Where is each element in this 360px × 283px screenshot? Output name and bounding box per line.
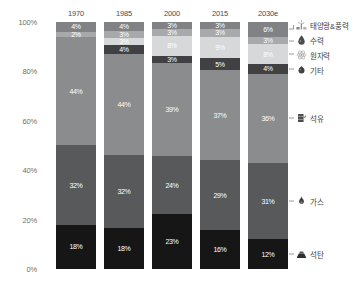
bar-segment-수력[interactable]: 3%	[248, 37, 288, 44]
bar-segment-태양광&풍력[interactable]: 4%	[56, 22, 96, 32]
legend-label: 원자력	[310, 50, 330, 61]
bar-segment-원자력[interactable]: 3%	[104, 38, 144, 45]
bar-column-1985: 19854%3%3%4%44%32%18%	[104, 0, 144, 283]
bar-segment-석유[interactable]: 36%	[248, 74, 288, 163]
legend-item-석탄[interactable]: 석탄	[296, 249, 323, 260]
legend-leader-line	[289, 54, 294, 55]
legend-leader-line	[289, 201, 294, 202]
segment-value-label: 37%	[213, 112, 226, 119]
segment-value-label: 3%	[215, 29, 225, 36]
bar-segment-기타[interactable]: 3%	[152, 56, 192, 63]
segment-value-label: 4%	[119, 46, 129, 53]
stacked-bar[interactable]: 4%2%44%32%18%	[56, 22, 96, 269]
stacked-bar[interactable]: 3%3%8%3%39%24%23%	[152, 22, 192, 269]
bar-segment-태양광&풍력[interactable]: 3%	[200, 22, 240, 29]
segment-value-label: 39%	[165, 106, 178, 113]
bar-segment-수력[interactable]: 3%	[152, 29, 192, 36]
segment-value-label: 8%	[263, 51, 273, 58]
segment-value-label: 3%	[263, 37, 273, 44]
legend-item-석유[interactable]: 석유	[296, 113, 323, 124]
bar-segment-가스[interactable]: 32%	[56, 145, 96, 224]
y-axis-tick: 40%	[23, 166, 37, 175]
segment-value-label: 3%	[167, 29, 177, 36]
segment-value-label: 3%	[167, 56, 177, 63]
legend-item-기타[interactable]: 기타	[296, 65, 323, 76]
segment-value-label: 3%	[167, 22, 177, 29]
bar-segment-석유[interactable]: 44%	[104, 54, 144, 155]
segment-value-label: 32%	[69, 182, 82, 189]
segment-value-label: 4%	[119, 23, 129, 30]
bar-column-1970: 19704%2%44%32%18%	[56, 0, 96, 283]
segment-value-label: 6%	[263, 26, 273, 33]
bar-column-2015: 20153%3%9%5%37%29%16%	[200, 0, 240, 283]
legend-label: 수력	[310, 35, 323, 46]
bar-segment-원자력[interactable]: 9%	[200, 37, 240, 59]
bar-segment-수력[interactable]: 3%	[104, 31, 144, 38]
column-header: 1970	[56, 9, 96, 18]
segment-value-label: 16%	[213, 246, 226, 253]
bar-segment-석탄[interactable]: 16%	[200, 230, 240, 269]
bar-segment-가스[interactable]: 29%	[200, 160, 240, 230]
segment-value-label: 23%	[165, 238, 178, 245]
legend-item-원자력[interactable]: 원자력	[296, 50, 330, 61]
bar-column-2030e: 2030e6%3%8%4%36%31%12%	[248, 0, 288, 283]
bar-segment-기타[interactable]: 4%	[104, 45, 144, 54]
legend-label: 태양광&풍력	[310, 20, 348, 31]
bar-segment-가스[interactable]: 24%	[152, 156, 192, 214]
bar-segment-원자력[interactable]: 8%	[248, 44, 288, 64]
chart-legend: 태양광&풍력수력원자력기타석유가스석탄	[296, 0, 360, 283]
stacked-bar[interactable]: 6%3%8%4%36%31%12%	[248, 22, 288, 269]
bar-segment-석유[interactable]: 39%	[152, 63, 192, 157]
legend-leader-line	[289, 118, 294, 119]
legend-leader-joiner	[293, 25, 294, 29]
bar-segment-기타[interactable]: 4%	[248, 64, 288, 74]
bar-column-2000: 20003%3%8%3%39%24%23%	[152, 0, 192, 283]
legend-leader-line	[289, 254, 294, 255]
bar-segment-기타[interactable]: 5%	[200, 58, 240, 70]
other-dot-icon	[296, 65, 307, 76]
bar-segment-석탄[interactable]: 12%	[248, 239, 288, 269]
legend-item-수력[interactable]: 수력	[296, 35, 323, 46]
legend-item-태양광&풍력[interactable]: 태양광&풍력	[296, 20, 348, 31]
bar-segment-석유[interactable]: 37%	[200, 70, 240, 160]
column-header: 2000	[152, 9, 192, 18]
y-axis-tick: 100%	[19, 18, 37, 27]
segment-value-label: 3%	[215, 22, 225, 29]
bar-segment-태양광&풍력[interactable]: 4%	[104, 22, 144, 31]
column-header: 2030e	[248, 9, 288, 18]
bar-segment-석탄[interactable]: 18%	[56, 225, 96, 269]
legend-leader-line	[289, 68, 294, 69]
segment-value-label: 44%	[117, 101, 130, 108]
atom-icon	[296, 50, 307, 61]
segment-value-label: 3%	[119, 31, 129, 38]
bar-segment-석탄[interactable]: 23%	[152, 214, 192, 269]
bar-segment-수력[interactable]: 3%	[200, 29, 240, 36]
legend-item-가스[interactable]: 가스	[296, 196, 323, 207]
bar-segment-원자력[interactable]: 8%	[152, 36, 192, 55]
y-axis: 100%80%60%40%20%0%	[0, 0, 44, 283]
segment-value-label: 18%	[117, 245, 130, 252]
legend-label: 석탄	[310, 249, 323, 260]
column-header: 2015	[200, 9, 240, 18]
stacked-bar[interactable]: 3%3%9%5%37%29%16%	[200, 22, 240, 269]
bar-segment-가스[interactable]: 32%	[104, 155, 144, 228]
legend-label: 기타	[310, 65, 323, 76]
column-header: 1985	[104, 9, 144, 18]
segment-value-label: 12%	[261, 251, 274, 258]
segment-value-label: 4%	[263, 65, 273, 72]
segment-value-label: 4%	[71, 23, 81, 30]
coal-icon	[296, 249, 307, 260]
stacked-bar[interactable]: 4%3%3%4%44%32%18%	[104, 22, 144, 269]
y-axis-tick: 80%	[23, 67, 37, 76]
bar-segment-석탄[interactable]: 18%	[104, 228, 144, 269]
segment-value-label: 29%	[213, 192, 226, 199]
bar-segment-가스[interactable]: 31%	[248, 163, 288, 240]
bar-segment-태양광&풍력[interactable]: 6%	[248, 22, 288, 37]
segment-value-label: 8%	[167, 42, 177, 49]
y-axis-tick: 20%	[23, 215, 37, 224]
water-drop-icon	[296, 35, 307, 46]
bar-segment-석유[interactable]: 44%	[56, 37, 96, 146]
bar-segment-태양광&풍력[interactable]: 3%	[152, 22, 192, 29]
oil-barrel-icon	[296, 113, 307, 124]
gas-flame-icon	[296, 196, 307, 207]
